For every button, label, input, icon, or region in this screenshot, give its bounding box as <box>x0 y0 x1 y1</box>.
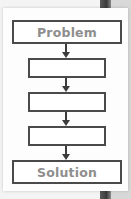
node-label: Solution <box>37 165 97 180</box>
flow-node-problem: Problem <box>12 20 122 44</box>
flow-node-step-1 <box>28 58 106 78</box>
node-label: Problem <box>37 25 97 40</box>
flow-node-step-3 <box>28 126 106 146</box>
flowchart-card: Problem Solution <box>3 8 128 191</box>
flow-node-step-2 <box>28 92 106 112</box>
flow-node-solution: Solution <box>12 160 122 184</box>
